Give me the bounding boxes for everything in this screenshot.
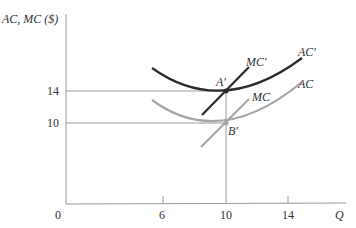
ac-prime-curve [152, 58, 302, 91]
y-tick-label-10: 10 [47, 116, 59, 130]
b-prime-label: B′ [228, 124, 238, 138]
y-axis-label: AC, MC ($) [1, 12, 58, 26]
origin-label: 0 [55, 208, 61, 222]
x-axis [66, 203, 346, 204]
y-tick-label-14: 14 [47, 84, 59, 98]
cost-curves-chart: AC, MC ($) Q 0 6 10 14 14 10 AC′ MC′ AC … [0, 0, 356, 228]
ac-curve [152, 82, 302, 121]
mc-label: MC [251, 90, 271, 104]
x-tick-label-14: 14 [282, 208, 294, 222]
ac-prime-label: AC′ [297, 45, 316, 59]
x-tick-label-10: 10 [220, 208, 232, 222]
ac-label: AC [297, 77, 314, 91]
x-axis-label: Q [335, 208, 344, 222]
x-tick-label-6: 6 [159, 208, 165, 222]
point-a-prime [224, 89, 229, 94]
mc-prime-label: MC′ [245, 55, 267, 69]
a-prime-label: A′ [215, 75, 226, 89]
